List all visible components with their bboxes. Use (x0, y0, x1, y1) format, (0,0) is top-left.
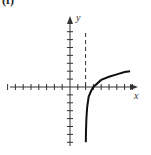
graph-figure: (f) y x (0, 0, 151, 155)
function-curve (86, 71, 130, 142)
coordinate-plane: y x (0, 0, 151, 155)
x-axis (8, 84, 138, 90)
y-axis (67, 16, 73, 146)
y-axis-arrow-icon (67, 16, 73, 24)
y-axis-label: y (75, 12, 81, 23)
x-axis-label: x (133, 90, 139, 101)
